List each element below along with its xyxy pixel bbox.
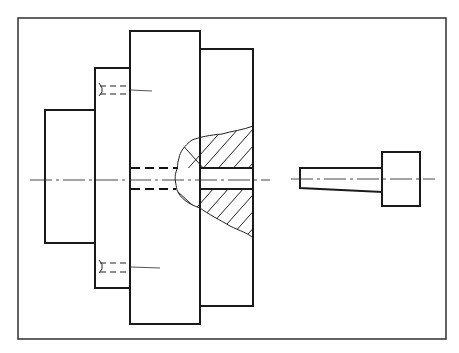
left-block xyxy=(45,110,95,243)
second-block xyxy=(95,68,130,288)
pin-shaft xyxy=(300,168,382,192)
technical-drawing xyxy=(0,0,459,353)
right-plate xyxy=(200,49,253,306)
right-plate-bore xyxy=(200,168,253,189)
center-plate xyxy=(130,31,200,324)
tapered-pin xyxy=(291,152,435,206)
center-bore-hidden xyxy=(131,168,178,189)
upper-dowel-hole xyxy=(99,83,152,96)
